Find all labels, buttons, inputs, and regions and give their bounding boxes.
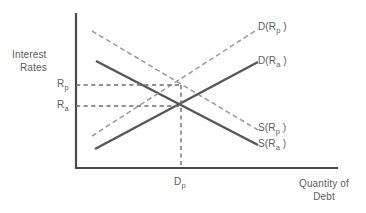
y-tick-label-rp: Rp [57,78,69,90]
y-tick-ra-sub: a [64,104,68,113]
curve-label-demand-rp-tail: ) [280,21,286,32]
curve-demand-ra [96,61,258,145]
x-axis-title-line2: Debt [313,191,335,202]
curve-label-demand-ra-base: D(R [258,55,276,66]
curve-label-supply-rp: S(Rp ) [258,122,286,134]
x-tick-dp-sub: p [181,181,185,190]
curve-label-supply-ra-base: S(R [258,138,276,149]
y-axis-title: Interest Rates [12,48,76,74]
y-tick-rp-sub: p [64,83,68,92]
curve-label-demand-rp-sub: p [276,26,280,35]
y-axis-title-line2: Rates [20,61,76,74]
y-axis-title-line1: Interest [12,49,47,60]
curve-label-demand-ra: D(Ra ) [258,55,287,67]
curve-label-demand-rp: D(Rp ) [258,21,287,33]
curve-label-supply-ra: S(Ra ) [258,138,286,150]
interest-rate-debt-chart: Interest Rates Quantity of Debt Rp Ra Dp… [0,0,366,213]
curve-label-supply-rp-sub: p [276,127,280,136]
curve-label-demand-ra-tail: ) [280,55,286,66]
x-axis-title-line1: Quantity of [299,178,349,189]
curve-label-supply-ra-sub: a [276,143,280,152]
curve-label-demand-ra-sub: a [276,60,280,69]
curve-label-demand-rp-base: D(R [258,21,276,32]
y-tick-label-ra: Ra [57,99,69,111]
x-tick-label-dp: Dp [174,176,186,188]
curve-label-supply-rp-base: S(R [258,122,276,133]
curve-label-supply-ra-tail: ) [280,138,286,149]
curve-label-supply-rp-tail: ) [280,122,286,133]
x-axis-title: Quantity of Debt [285,177,363,203]
